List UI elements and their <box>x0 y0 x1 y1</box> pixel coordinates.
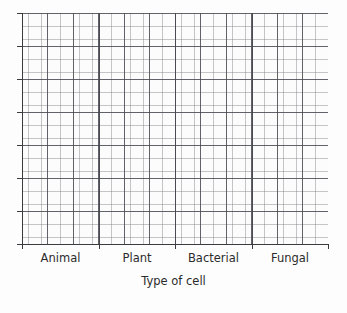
y-axis-tick-2 <box>17 178 22 179</box>
x-axis-tick-3 <box>252 244 253 249</box>
chart-figure: Animal Plant Bacterial Fungal Type of ce… <box>0 0 347 313</box>
y-axis-tick-5 <box>17 79 22 80</box>
x-axis-label-plant: Plant <box>99 250 175 266</box>
y-axis-tick-3 <box>17 145 22 146</box>
x-axis-title: Type of cell <box>0 274 347 288</box>
x-axis-label-bacterial: Bacterial <box>175 250 252 266</box>
y-axis-line <box>22 13 23 245</box>
category-divider-1 <box>99 13 100 244</box>
x-axis-tick-1 <box>99 244 100 249</box>
y-axis-tick-6 <box>17 46 22 47</box>
y-axis-tick-7 <box>17 13 22 14</box>
category-divider-2 <box>175 13 176 244</box>
x-axis-tick-0 <box>22 244 23 249</box>
x-axis-tick-2 <box>175 244 176 249</box>
x-axis-tick-4 <box>328 244 329 249</box>
x-axis-label-animal: Animal <box>22 250 99 266</box>
x-axis-label-fungal: Fungal <box>252 250 328 266</box>
category-divider-3 <box>252 13 253 244</box>
y-axis-tick-1 <box>17 211 22 212</box>
y-axis-tick-4 <box>17 112 22 113</box>
plot-area <box>22 13 328 244</box>
y-axis-tick-0 <box>17 244 22 245</box>
